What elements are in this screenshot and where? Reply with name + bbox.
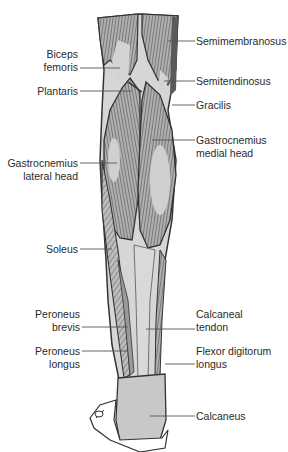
label-line: Semimembranosus <box>196 35 286 48</box>
label-biceps-femoris: Biceps femoris <box>44 48 78 73</box>
label-soleus: Soleus <box>46 243 78 256</box>
label-line: Semitendinosus <box>196 75 271 88</box>
label-peroneus-longus: Peroneus longus <box>35 345 80 370</box>
label-line: Biceps <box>44 48 78 61</box>
leg-anatomy-diagram: Biceps femoris Plantaris Gastrocnemius l… <box>0 0 288 452</box>
label-line: Peroneus <box>35 345 80 358</box>
label-line: Plantaris <box>37 85 78 98</box>
label-gastrocnemius-medial-head: Gastrocnemius medial head <box>196 134 267 159</box>
label-semitendinosus: Semitendinosus <box>196 75 271 88</box>
label-plantaris: Plantaris <box>37 85 78 98</box>
label-line: Calcaneus <box>196 410 246 423</box>
label-line: Flexor digitorum <box>196 345 271 358</box>
label-line: longus <box>35 358 80 371</box>
label-gastrocnemius-lateral-head: Gastrocnemius lateral head <box>7 157 78 182</box>
label-flexor-digitorum-longus: Flexor digitorum longus <box>196 345 271 370</box>
label-line: Peroneus <box>35 308 80 321</box>
label-line: medial head <box>196 147 267 160</box>
label-line: Soleus <box>46 243 78 256</box>
label-peroneus-brevis: Peroneus brevis <box>35 308 80 333</box>
label-calcaneus: Calcaneus <box>196 410 246 423</box>
label-line: brevis <box>35 321 80 334</box>
label-semimembranosus: Semimembranosus <box>196 35 286 48</box>
label-line: femoris <box>44 61 78 74</box>
label-line: Gastrocnemius <box>196 134 267 147</box>
heel-and-foot <box>90 374 168 452</box>
label-calcaneal-tendon: Calcaneal tendon <box>196 308 243 333</box>
label-line: tendon <box>196 321 243 334</box>
label-line: longus <box>196 358 271 371</box>
label-line: Gastrocnemius <box>7 157 78 170</box>
label-line: lateral head <box>7 170 78 183</box>
label-line: Calcaneal <box>196 308 243 321</box>
label-line: Gracilis <box>196 99 231 112</box>
label-gracilis: Gracilis <box>196 99 231 112</box>
